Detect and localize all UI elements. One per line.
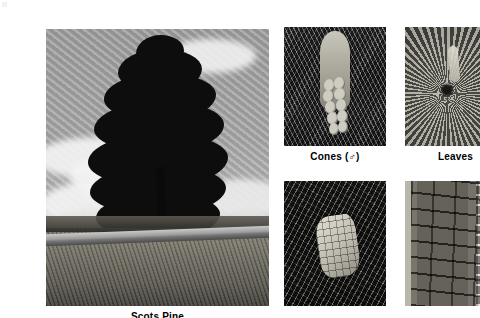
caption-cones-male: Cones (♂) xyxy=(284,151,386,163)
corner-artifact-speck xyxy=(2,2,7,7)
photo-bark[interactable] xyxy=(405,181,480,306)
photo-cones-male[interactable] xyxy=(284,27,386,146)
bark-fissures xyxy=(411,181,480,306)
photo-leaves[interactable] xyxy=(405,27,480,146)
foreground-field xyxy=(46,228,269,306)
bark-highlight-edge xyxy=(476,181,480,306)
figure-board: Scots Pine Cones (♂) Leaves xyxy=(0,0,480,318)
photo-cone-female[interactable] xyxy=(284,181,386,306)
photo-scots-pine[interactable] xyxy=(46,29,269,306)
caption-scots-pine: Scots Pine xyxy=(46,311,269,318)
caption-leaves: Leaves xyxy=(405,151,480,163)
